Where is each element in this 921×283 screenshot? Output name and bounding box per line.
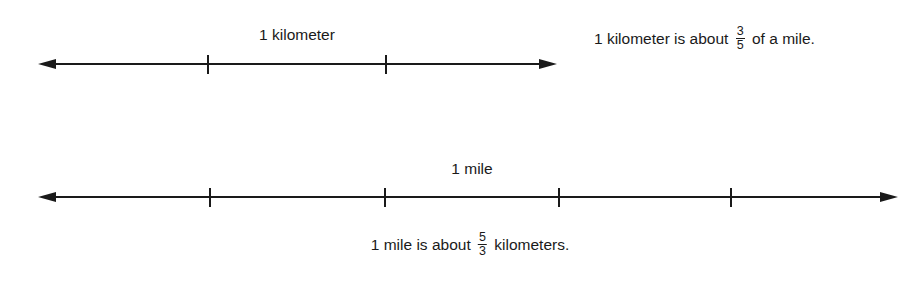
- mile-interval-label: 1 mile: [451, 161, 492, 177]
- fraction-denominator: 3: [478, 244, 487, 258]
- five-thirds-fraction: 5 3: [478, 231, 487, 259]
- mile-right-arrowhead: [880, 192, 898, 202]
- mile-left-arrowhead: [38, 192, 56, 202]
- unit-conversion-number-line-figure: 1 kilometer 1 mile 1 kilometer is about …: [0, 0, 921, 283]
- three-fifths-fraction: 3 5: [736, 25, 745, 53]
- mile-statement-suffix: kilometers.: [494, 236, 569, 253]
- kilometer-number-line: [38, 55, 557, 74]
- fraction-numerator: 3: [736, 25, 745, 38]
- fraction-numerator: 5: [478, 231, 487, 244]
- kilometer-conversion-statement: 1 kilometer is about 3 5 of a mile.: [594, 26, 815, 54]
- kilometer-interval-label: 1 kilometer: [259, 27, 335, 43]
- mile-statement-prefix: 1 mile is about: [371, 236, 471, 253]
- kilometer-right-arrowhead: [539, 59, 557, 69]
- fraction-denominator: 5: [736, 38, 745, 52]
- mile-number-line: [38, 188, 898, 207]
- kilometer-statement-suffix: of a mile.: [752, 30, 815, 47]
- kilometer-statement-prefix: 1 kilometer is about: [594, 30, 728, 47]
- mile-conversion-statement: 1 mile is about 5 3 kilometers.: [371, 232, 569, 260]
- kilometer-left-arrowhead: [38, 59, 56, 69]
